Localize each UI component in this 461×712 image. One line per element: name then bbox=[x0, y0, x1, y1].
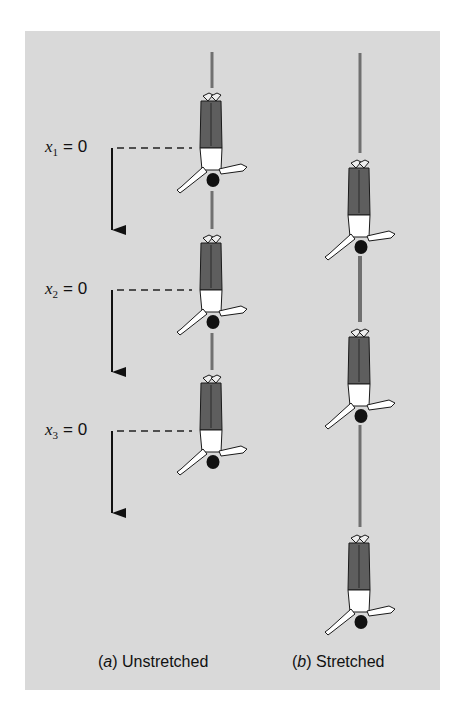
column-unstretched bbox=[112, 52, 247, 513]
jumper-figure bbox=[177, 235, 247, 335]
label-variable: x bbox=[45, 420, 53, 439]
column-stretched bbox=[325, 53, 395, 635]
label-equals: = 0 bbox=[63, 137, 87, 156]
caption-unstretched: (a) Unstretched bbox=[98, 654, 208, 670]
caption-text: Unstretched bbox=[122, 653, 208, 670]
jumper-figure bbox=[325, 160, 395, 260]
caption-stretched: (b) Stretched bbox=[292, 654, 385, 670]
label-subscript: 2 bbox=[53, 288, 59, 300]
position-label-x1: x1= 0 bbox=[45, 138, 87, 158]
label-subscript: 3 bbox=[53, 429, 59, 441]
label-equals: = 0 bbox=[63, 279, 87, 298]
label-variable: x bbox=[45, 137, 53, 156]
bungee-diagram bbox=[0, 0, 461, 712]
label-equals: = 0 bbox=[63, 420, 87, 439]
jumper-figure bbox=[325, 535, 395, 635]
jumper-figure bbox=[177, 93, 247, 193]
caption-text: Stretched bbox=[316, 653, 384, 670]
caption-letter: a bbox=[103, 653, 112, 670]
position-label-x2: x2= 0 bbox=[45, 280, 87, 300]
jumper-figure bbox=[325, 329, 395, 429]
jumper-figure bbox=[177, 375, 247, 475]
position-label-x3: x3= 0 bbox=[45, 421, 87, 441]
label-subscript: 1 bbox=[53, 146, 59, 158]
caption-letter: b bbox=[297, 653, 306, 670]
label-variable: x bbox=[45, 279, 53, 298]
